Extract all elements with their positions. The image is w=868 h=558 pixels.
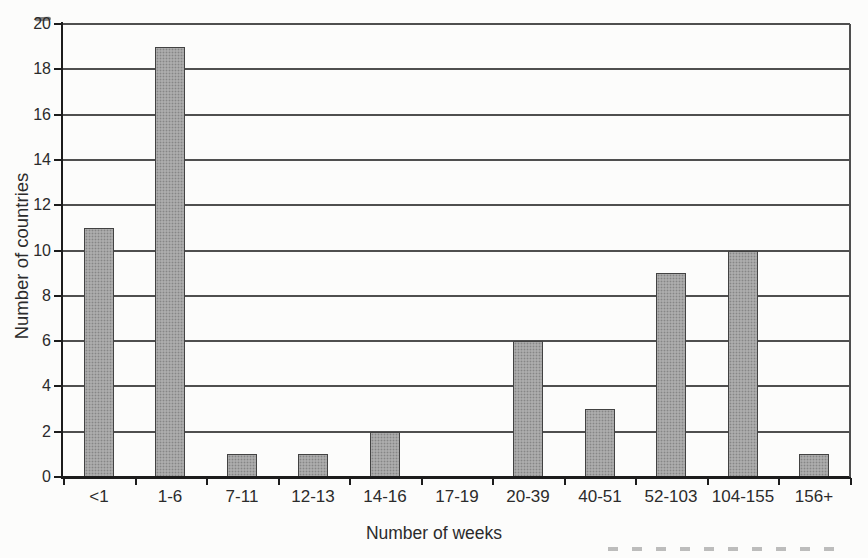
x-tick-mark-9 <box>707 478 709 485</box>
y-tick-label-16: 16 <box>13 106 51 124</box>
bar-156plus <box>799 454 829 477</box>
bar-14-16 <box>370 432 400 477</box>
x-tick-mark-5 <box>421 478 423 485</box>
bar-20-39 <box>513 341 543 477</box>
bar-104-155 <box>728 251 758 478</box>
bar-chart-figure: Number of countries Number of weeks <11-… <box>0 0 868 558</box>
y-tick-label-20: 20 <box>13 15 51 33</box>
bar-52-103 <box>656 273 686 477</box>
y-tick-mark-16 <box>54 114 61 116</box>
y-tick-label-0: 0 <box>13 468 51 486</box>
y-tick-mark-10 <box>54 250 61 252</box>
x-tick-mark-10 <box>778 478 780 485</box>
x-tick-mark-11 <box>850 478 852 485</box>
y-tick-label-12: 12 <box>13 196 51 214</box>
gridline-20 <box>63 23 850 25</box>
y-tick-mark-4 <box>54 385 61 387</box>
y-tick-mark-6 <box>54 340 61 342</box>
bar-7-11 <box>227 454 257 477</box>
y-tick-mark-0 <box>54 476 61 478</box>
scan-artifact-bottom-right <box>608 547 838 551</box>
x-tick-mark-8 <box>635 478 637 485</box>
y-tick-mark-20 <box>54 23 61 25</box>
x-tick-mark-7 <box>564 478 566 485</box>
bar-1-6 <box>155 47 185 477</box>
x-tick-mark-3 <box>278 478 280 485</box>
y-tick-mark-14 <box>54 159 61 161</box>
y-tick-label-2: 2 <box>13 423 51 441</box>
x-tick-mark-6 <box>492 478 494 485</box>
y-tick-label-18: 18 <box>13 60 51 78</box>
plot-right-border <box>849 24 851 477</box>
y-tick-label-8: 8 <box>13 287 51 305</box>
x-tick-mark-2 <box>206 478 208 485</box>
x-tick-mark-4 <box>349 478 351 485</box>
y-tick-label-4: 4 <box>13 377 51 395</box>
bar-12-13 <box>298 454 328 477</box>
y-tick-mark-8 <box>54 295 61 297</box>
bar-40-51 <box>585 409 615 477</box>
bar-lt1 <box>84 228 114 477</box>
y-tick-label-6: 6 <box>13 332 51 350</box>
y-tick-mark-12 <box>54 204 61 206</box>
y-tick-label-10: 10 <box>13 242 51 260</box>
x-axis-title: Number of weeks <box>334 523 534 544</box>
x-axis-line <box>61 476 851 479</box>
x-tick-mark-1 <box>135 478 137 485</box>
y-tick-label-14: 14 <box>13 151 51 169</box>
y-tick-mark-18 <box>54 68 61 70</box>
y-axis-line <box>61 22 63 479</box>
x-tick-label-156plus: 156+ <box>769 488 859 506</box>
x-tick-mark-0 <box>63 478 65 485</box>
y-tick-mark-2 <box>54 431 61 433</box>
